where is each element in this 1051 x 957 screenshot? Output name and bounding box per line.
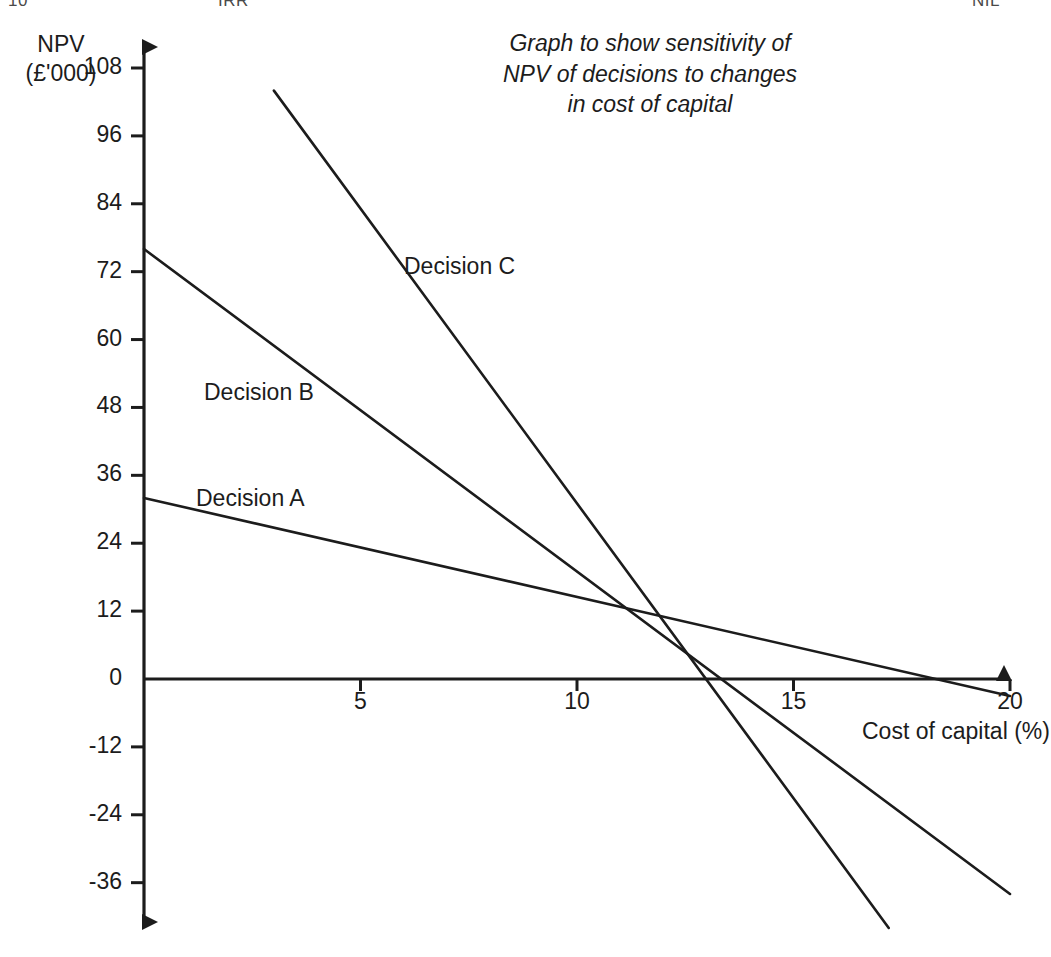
chart-plot-area	[0, 0, 1051, 957]
graph-page: 10 IRR NIL Graph to show sensitivity of …	[0, 0, 1051, 957]
series-lines	[144, 91, 1010, 928]
axes-group	[144, 47, 1004, 922]
series-line-decision-a	[144, 498, 1010, 696]
axis-tick-marks	[131, 68, 1010, 883]
series-line-decision-c	[274, 91, 889, 928]
series-line-decision-b	[144, 249, 1010, 894]
